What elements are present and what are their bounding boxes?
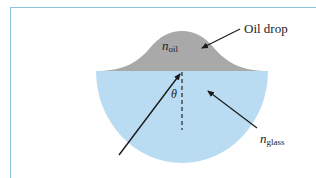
- diagram-canvas: Oil drop noil nglass θ: [0, 0, 316, 178]
- oil-drop-pointer-arrow: [202, 29, 240, 48]
- theta-label: θ: [171, 87, 177, 101]
- oil-drop-shape: [100, 31, 264, 71]
- n-oil-subscript: oil: [169, 44, 179, 54]
- n-glass-subscript: glass: [267, 137, 285, 147]
- n-glass-label: nglass: [260, 131, 285, 147]
- oil-drop-label: Oil drop: [244, 21, 288, 36]
